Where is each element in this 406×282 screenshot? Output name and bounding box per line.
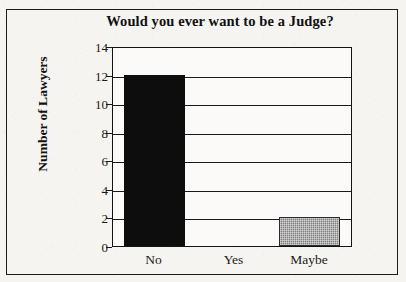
y-tick-mark bbox=[106, 247, 112, 248]
x-tick-label-yes: Yes bbox=[203, 252, 264, 268]
y-tick-label: 10 bbox=[82, 98, 108, 111]
y-axis-title: Number of Lawyers bbox=[35, 44, 51, 184]
x-tick-label-no: No bbox=[123, 252, 184, 268]
bar-maybe[interactable] bbox=[279, 217, 340, 246]
plot-area bbox=[112, 47, 352, 247]
bar-no[interactable] bbox=[124, 75, 185, 246]
chart-screenshot: Would you ever want to be a Judge? Numbe… bbox=[0, 0, 406, 282]
y-tick-label: 8 bbox=[82, 127, 108, 140]
y-axis-tick-labels: 14 12 10 8 6 4 2 0 bbox=[82, 47, 108, 247]
y-tick-label: 2 bbox=[82, 212, 108, 225]
y-tick-label: 12 bbox=[82, 70, 108, 83]
x-axis-tick-labels: No Yes Maybe bbox=[112, 252, 352, 274]
y-tick-label: 14 bbox=[82, 41, 108, 54]
y-tick-label: 0 bbox=[82, 241, 108, 254]
chart-title: Would you ever want to be a Judge? bbox=[60, 13, 380, 30]
y-tick-label: 6 bbox=[82, 155, 108, 168]
x-tick-label-maybe: Maybe bbox=[274, 252, 344, 268]
y-tick-label: 4 bbox=[82, 184, 108, 197]
